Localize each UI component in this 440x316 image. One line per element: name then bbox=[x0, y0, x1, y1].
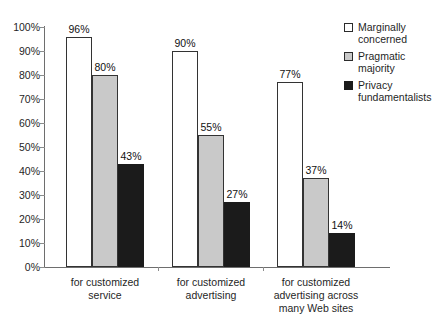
bar-pragmatic-group-1 bbox=[92, 75, 118, 267]
bar-value-label: 43% bbox=[114, 151, 148, 162]
y-axis-tick-label-wrap: 70% bbox=[0, 94, 40, 105]
y-axis-tick-label: 80% bbox=[4, 70, 40, 81]
legend-swatch-icon bbox=[344, 23, 353, 32]
x-axis-category-label: for customizedadvertising acrossmany Web… bbox=[256, 276, 376, 315]
x-axis-category-label-line: advertising across bbox=[256, 289, 376, 302]
legend-label: Marginallyconcerned bbox=[358, 22, 407, 45]
y-axis-tick-label-wrap: 60% bbox=[0, 118, 40, 129]
y-axis-tick bbox=[40, 27, 45, 28]
x-axis-category-label-line: for customized bbox=[256, 276, 376, 289]
y-axis-tick bbox=[40, 123, 45, 124]
bar-fundamentalist-group-1 bbox=[118, 164, 144, 267]
legend-label-line: Pragmatic bbox=[358, 51, 405, 63]
y-axis-tick bbox=[40, 51, 45, 52]
legend-label-line: concerned bbox=[358, 34, 407, 46]
bar-value-label: 96% bbox=[62, 24, 96, 35]
y-axis-tick bbox=[40, 195, 45, 196]
legend-item-pragmatic[interactable]: Pragmaticmajority bbox=[344, 51, 440, 74]
legend: MarginallyconcernedPragmaticmajorityPriv… bbox=[344, 22, 440, 109]
y-axis-tick-label: 10% bbox=[4, 238, 40, 249]
x-axis-category-label-line: for customized bbox=[45, 276, 165, 289]
y-axis-tick-label: 20% bbox=[4, 214, 40, 225]
y-axis-tick bbox=[40, 267, 45, 268]
y-axis-tick-label-wrap: 40% bbox=[0, 166, 40, 177]
legend-swatch-icon bbox=[344, 52, 353, 61]
legend-item-fundamentalist[interactable]: Privacyfundamentalists bbox=[344, 80, 440, 103]
y-axis-tick bbox=[40, 171, 45, 172]
legend-label-line: Privacy bbox=[358, 80, 432, 92]
y-axis-tick bbox=[40, 243, 45, 244]
x-axis-category-label-line: advertising bbox=[151, 289, 271, 302]
bar-value-label: 55% bbox=[194, 122, 228, 133]
y-axis-tick-label-wrap: 30% bbox=[0, 190, 40, 201]
bar-value-label: 27% bbox=[220, 189, 254, 200]
legend-label-line: majority bbox=[358, 63, 405, 75]
y-axis-tick-label-wrap: 0% bbox=[0, 262, 40, 273]
bar-value-label: 37% bbox=[299, 165, 333, 176]
bar-value-label: 90% bbox=[168, 38, 202, 49]
legend-item-marginal[interactable]: Marginallyconcerned bbox=[344, 22, 440, 45]
bar-value-label: 80% bbox=[88, 62, 122, 73]
y-axis-tick bbox=[40, 99, 45, 100]
x-axis-category-label-line: for customized bbox=[151, 276, 271, 289]
y-axis-tick-label-wrap: 50% bbox=[0, 142, 40, 153]
y-axis-tick-label-wrap: 90% bbox=[0, 46, 40, 57]
y-axis-tick-label: 30% bbox=[4, 190, 40, 201]
legend-label: Privacyfundamentalists bbox=[358, 80, 432, 103]
y-axis-tick-label: 50% bbox=[4, 142, 40, 153]
bar-fundamentalist-group-2 bbox=[224, 202, 250, 267]
x-axis-category-label-line: service bbox=[45, 289, 165, 302]
x-axis-category-label: for customizedadvertising bbox=[151, 276, 271, 302]
y-axis-tick-label: 0% bbox=[4, 262, 40, 273]
y-axis-tick bbox=[40, 219, 45, 220]
x-axis-category-label-line: many Web sites bbox=[256, 302, 376, 315]
y-axis-tick-label: 60% bbox=[4, 118, 40, 129]
y-axis-tick-label-wrap: 100% bbox=[0, 22, 40, 33]
legend-label-line: Marginally bbox=[358, 22, 407, 34]
bar-fundamentalist-group-3 bbox=[329, 233, 355, 267]
y-axis-tick-label: 90% bbox=[4, 46, 40, 57]
x-axis-tick bbox=[263, 267, 264, 271]
y-axis-tick-label: 100% bbox=[4, 22, 40, 33]
legend-swatch-icon bbox=[344, 81, 353, 90]
y-axis-tick bbox=[40, 147, 45, 148]
bar-pragmatic-group-2 bbox=[198, 135, 224, 267]
bar-marginal-group-2 bbox=[172, 51, 198, 267]
bar-value-label: 14% bbox=[325, 220, 359, 231]
legend-label: Pragmaticmajority bbox=[358, 51, 405, 74]
y-axis-tick-label-wrap: 10% bbox=[0, 238, 40, 249]
y-axis-tick-label: 40% bbox=[4, 166, 40, 177]
x-axis-category-label: for customizedservice bbox=[45, 276, 165, 302]
bar-chart: 0%10%20%30%40%50%60%70%80%90%100% 96%80%… bbox=[0, 0, 440, 316]
legend-label-line: fundamentalists bbox=[358, 92, 432, 104]
y-axis-tick-label-wrap: 80% bbox=[0, 70, 40, 81]
y-axis-tick bbox=[40, 75, 45, 76]
y-axis-tick-label: 70% bbox=[4, 94, 40, 105]
x-axis-line bbox=[44, 267, 390, 268]
bar-value-label: 77% bbox=[273, 69, 307, 80]
x-axis-tick bbox=[158, 267, 159, 271]
y-axis-tick-label-wrap: 20% bbox=[0, 214, 40, 225]
